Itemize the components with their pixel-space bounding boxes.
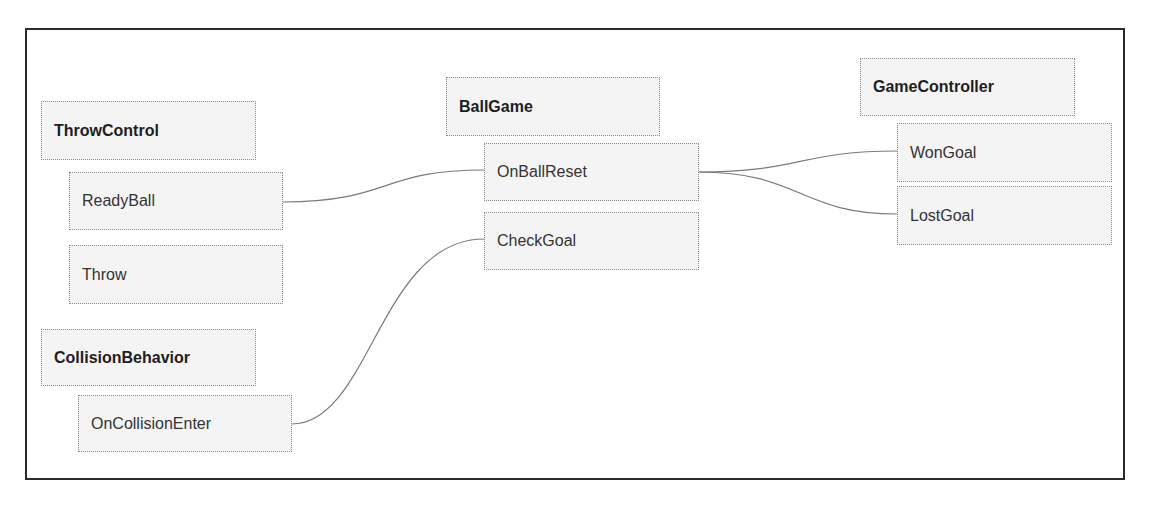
node-throwcontrol[interactable]: ThrowControl [41, 101, 256, 160]
node-label: WonGoal [910, 144, 976, 162]
node-lostgoal[interactable]: LostGoal [897, 186, 1112, 245]
node-label: ReadyBall [82, 192, 155, 210]
node-ballgame[interactable]: BallGame [446, 77, 660, 136]
node-readyball[interactable]: ReadyBall [69, 172, 283, 230]
node-collisionbehavior[interactable]: CollisionBehavior [41, 329, 256, 386]
node-label: Throw [82, 266, 126, 284]
node-label: CheckGoal [497, 232, 576, 250]
node-label: OnCollisionEnter [91, 415, 211, 433]
node-label: CollisionBehavior [54, 349, 190, 367]
node-throw[interactable]: Throw [69, 245, 283, 304]
node-oncollisionenter[interactable]: OnCollisionEnter [78, 395, 292, 452]
node-onballreset[interactable]: OnBallReset [484, 143, 699, 201]
node-checkgoal[interactable]: CheckGoal [484, 212, 699, 270]
node-label: BallGame [459, 98, 533, 116]
node-label: ThrowControl [54, 122, 159, 140]
node-label: LostGoal [910, 207, 974, 225]
node-gamecontroller[interactable]: GameController [860, 58, 1075, 116]
node-label: GameController [873, 78, 994, 96]
node-wongoal[interactable]: WonGoal [897, 123, 1112, 182]
node-label: OnBallReset [497, 163, 587, 181]
